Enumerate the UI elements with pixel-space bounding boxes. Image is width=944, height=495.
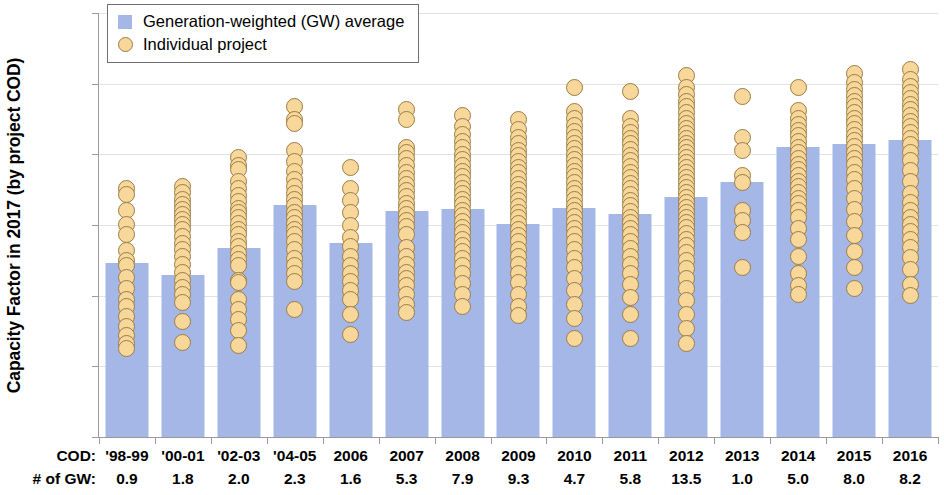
individual-project-dot	[118, 226, 135, 243]
individual-project-dot	[398, 111, 415, 128]
x-axis-tick-mark	[491, 437, 492, 444]
individual-project-dot	[734, 174, 751, 191]
x-axis-tick-mark	[323, 437, 324, 444]
individual-project-dot	[734, 88, 751, 105]
legend-square-swatch-icon	[118, 15, 132, 29]
x-axis-tick-mark	[658, 437, 659, 444]
individual-project-dot	[846, 280, 863, 297]
legend-label-individual-project: Individual project	[143, 35, 267, 54]
y-axis-title-text: Capacity Factor in 2017 (by project COD)	[5, 57, 26, 392]
individual-project-dot	[174, 313, 191, 330]
gw-cell-label: 5.0	[770, 470, 826, 488]
data-column	[882, 13, 938, 437]
gw-cell-label: 2.0	[211, 470, 267, 488]
x-axis-line	[99, 437, 938, 438]
cod-cell-label: 2009	[491, 447, 547, 465]
data-column	[770, 13, 826, 437]
cod-cell-label: 2012	[658, 447, 714, 465]
data-column	[99, 13, 155, 437]
individual-project-dot	[734, 142, 751, 159]
individual-project-dot	[230, 274, 247, 291]
cod-cell-label: 2011	[602, 447, 658, 465]
gw-cell-label: 2.3	[267, 470, 323, 488]
gw-cell-label: 4.7	[546, 470, 602, 488]
individual-project-dot	[622, 83, 639, 100]
x-axis-tick-mark	[211, 437, 212, 444]
individual-project-dot	[678, 335, 695, 352]
cod-cell-label: '02-03	[211, 447, 267, 465]
legend-item-individual-project: Individual project	[118, 33, 404, 56]
legend-label-gw-average: Generation-weighted (GW) average	[143, 12, 404, 31]
individual-project-dot	[230, 337, 247, 354]
data-column	[658, 13, 714, 437]
gw-cell-label: 1.8	[155, 470, 211, 488]
individual-project-dot	[846, 243, 863, 260]
x-axis-tick-mark	[770, 437, 771, 444]
gw-cell-label: 5.3	[379, 470, 435, 488]
gw-cell-label: 0.9	[99, 470, 155, 488]
x-axis-tick-mark	[602, 437, 603, 444]
gw-cell-label: 8.0	[826, 470, 882, 488]
data-column	[602, 13, 658, 437]
individual-project-dot	[566, 79, 583, 96]
data-column	[546, 13, 602, 437]
gw-cell-label: 7.9	[435, 470, 491, 488]
chart-legend: Generation-weighted (GW) average Individ…	[107, 4, 419, 63]
x-axis-tick-mark	[99, 437, 100, 444]
gw-cell-label: 1.0	[714, 470, 770, 488]
x-axis-tick-mark	[267, 437, 268, 444]
cod-cell-label: 2016	[882, 447, 938, 465]
x-axis-tick-mark	[714, 437, 715, 444]
plot-area	[99, 13, 938, 437]
gw-cell-label: 9.3	[491, 470, 547, 488]
data-column	[267, 13, 323, 437]
capacity-factor-chart: Capacity Factor in 2017 (by project COD)…	[0, 0, 944, 495]
cod-cell-label: 2010	[546, 447, 602, 465]
individual-project-dot	[846, 227, 863, 244]
individual-project-dot	[790, 248, 807, 265]
gw-cell-label: 1.6	[323, 470, 379, 488]
x-axis-tick-mark	[826, 437, 827, 444]
cod-cell-label: '98-99	[99, 447, 155, 465]
x-axis-label-table: COD: # of GW: '98-990.9'00-011.8'02-032.…	[0, 446, 944, 495]
cod-cell-label: 2014	[770, 447, 826, 465]
data-column	[379, 13, 435, 437]
individual-project-dot	[118, 186, 135, 203]
cod-cell-label: 2013	[714, 447, 770, 465]
legend-circle-swatch-icon	[118, 37, 133, 52]
individual-project-dot	[566, 310, 583, 327]
cod-cell-label: 2015	[826, 447, 882, 465]
individual-project-dot	[286, 301, 303, 318]
data-column	[155, 13, 211, 437]
individual-project-dot	[734, 224, 751, 241]
x-axis-tick-mark	[938, 437, 939, 444]
x-axis-tick-mark	[546, 437, 547, 444]
data-column	[435, 13, 491, 437]
individual-project-dot	[286, 115, 303, 132]
individual-project-dot	[510, 307, 527, 324]
cod-cell-label: 2008	[435, 447, 491, 465]
x-axis-tick-mark	[379, 437, 380, 444]
individual-project-dot	[790, 286, 807, 303]
individual-project-dot	[342, 306, 359, 323]
individual-project-dot	[342, 159, 359, 176]
legend-item-gw-average: Generation-weighted (GW) average	[118, 10, 404, 33]
individual-project-dot	[734, 259, 751, 276]
individual-project-dot	[678, 320, 695, 337]
individual-project-dot	[902, 287, 919, 304]
gw-row-header: # of GW:	[0, 470, 96, 488]
cod-cell-label: 2006	[323, 447, 379, 465]
gw-cell-label: 8.2	[882, 470, 938, 488]
x-axis-tick-mark	[882, 437, 883, 444]
x-axis-tick-mark	[435, 437, 436, 444]
individual-project-dot	[790, 231, 807, 248]
data-column	[211, 13, 267, 437]
data-column	[491, 13, 547, 437]
cod-cell-label: 2007	[379, 447, 435, 465]
data-column	[826, 13, 882, 437]
individual-project-dot	[846, 259, 863, 276]
individual-project-dot	[622, 306, 639, 323]
individual-project-dot	[790, 79, 807, 96]
gw-cell-label: 13.5	[658, 470, 714, 488]
y-axis-title: Capacity Factor in 2017 (by project COD)	[0, 0, 30, 450]
